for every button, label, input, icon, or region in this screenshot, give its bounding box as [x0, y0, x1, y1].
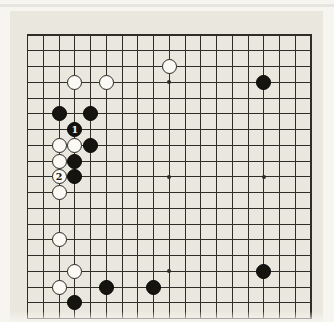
- black-stone: [67, 169, 82, 184]
- move-number-label: 2: [56, 172, 63, 182]
- black-stone: [52, 106, 67, 121]
- white-stone: [52, 138, 67, 153]
- white-stone: [67, 264, 82, 279]
- white-stone: [99, 75, 114, 90]
- grid-line-vertical: [310, 34, 312, 319]
- white-stone: [67, 75, 82, 90]
- go-board: 12: [0, 0, 334, 322]
- black-stone: [67, 154, 82, 169]
- grid-line-horizontal: [27, 255, 312, 256]
- black-stone: [99, 280, 114, 295]
- black-stone: [83, 138, 98, 153]
- star-point: [167, 175, 171, 179]
- grid-line-horizontal: [27, 208, 312, 209]
- move-1-stone: 1: [67, 122, 82, 137]
- black-stone: [83, 106, 98, 121]
- grid-line-vertical: [295, 34, 296, 319]
- white-stone: [52, 154, 67, 169]
- white-stone: [52, 232, 67, 247]
- grid-line-vertical: [200, 34, 201, 319]
- grid-line-vertical: [232, 34, 233, 319]
- black-stone: [256, 264, 271, 279]
- grid-line-vertical: [279, 34, 280, 319]
- grid-line-horizontal: [27, 287, 312, 288]
- move-2-stone: 2: [52, 169, 67, 184]
- move-number-label: 1: [71, 125, 78, 135]
- star-point: [167, 80, 171, 84]
- grid-line-horizontal: [27, 239, 312, 240]
- grid-line-vertical: [248, 34, 249, 319]
- grid-line-horizontal: [27, 224, 312, 225]
- grid-line-vertical: [185, 34, 186, 319]
- black-stone: [256, 75, 271, 90]
- white-stone: [52, 280, 67, 295]
- white-stone: [67, 138, 82, 153]
- grid-line-vertical: [216, 34, 217, 319]
- white-stone: [162, 59, 177, 74]
- white-stone: [52, 185, 67, 200]
- scanned-page: 12: [0, 0, 334, 322]
- star-point: [262, 175, 266, 179]
- black-stone: [67, 295, 82, 310]
- black-stone: [146, 280, 161, 295]
- star-point: [167, 269, 171, 273]
- scan-bottom-fade: [0, 311, 334, 322]
- grid-line-horizontal: [27, 192, 312, 193]
